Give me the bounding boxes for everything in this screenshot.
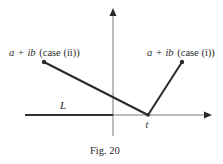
segment-case-i [148,62,182,115]
label-case-ii: a + ib (case (ii)) [9,47,80,59]
point-case-i [180,60,184,64]
figure-caption: Fig. 20 [90,145,120,156]
point-t [146,113,150,117]
label-t: t [146,119,149,130]
label-L: L [59,99,66,111]
complex-plane-diagram: a + ib (case (ii)) a + ib (case (i)) L t… [0,0,223,164]
point-case-ii [42,60,46,64]
label-case-i: a + ib (case (i)) [147,47,215,59]
x-axis-arrow-icon [204,112,212,119]
y-axis-arrow-icon [110,8,117,16]
